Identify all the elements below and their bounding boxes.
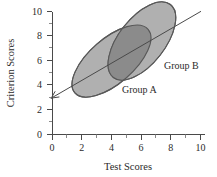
x-tick-label-0: 0 <box>50 142 55 153</box>
y-axis-title: Criterion Scores <box>5 39 16 108</box>
y-axis-minor-ticks <box>49 24 53 122</box>
x-tick-label-2: 2 <box>79 142 84 153</box>
x-tick-label-10: 10 <box>196 142 206 153</box>
x-tick-label-6: 6 <box>139 142 144 153</box>
x-axis-tick-labels: 0 2 4 6 8 10 <box>50 142 206 153</box>
y-tick-label-4: 4 <box>37 79 42 90</box>
y-tick-label-8: 8 <box>37 30 42 41</box>
x-axis-title: Test Scores <box>104 161 152 172</box>
y-axis-tick-labels: 0 2 4 6 8 10 <box>32 6 42 140</box>
y-tick-label-10: 10 <box>32 6 42 17</box>
group-b-label: Group B <box>164 60 199 71</box>
chart-figure: 0 2 4 6 8 10 0 2 4 6 8 10 Test Scores Cr… <box>0 0 217 177</box>
group-a-label: Group A <box>122 84 158 95</box>
x-tick-label-4: 4 <box>109 142 114 153</box>
x-axis-minor-ticks <box>67 134 186 138</box>
y-tick-label-2: 2 <box>37 104 42 115</box>
y-tick-label-0: 0 <box>37 129 42 140</box>
y-tick-label-6: 6 <box>37 55 42 66</box>
scatter-plot-svg: 0 2 4 6 8 10 0 2 4 6 8 10 Test Scores Cr… <box>0 0 217 177</box>
x-tick-label-8: 8 <box>168 142 173 153</box>
